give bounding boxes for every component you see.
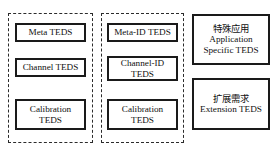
- box-calibration-teds-middle-line1: Calibration: [122, 104, 163, 114]
- box-calibration-teds-middle: Calibration TEDS: [107, 99, 178, 130]
- box-extension-teds-line2: Extension TEDS: [200, 104, 262, 114]
- box-calibration-teds-left-line2: TEDS: [39, 115, 62, 125]
- box-channel-id-teds-line1: Channel-ID: [121, 58, 164, 68]
- teds-structure-diagram: Meta TEDS Channel TEDS Calibration TEDS …: [0, 0, 276, 155]
- box-meta-id-teds: Meta-ID TEDS: [107, 23, 178, 42]
- box-channel-id-teds: Channel-ID TEDS: [107, 56, 178, 81]
- box-extension-teds: 扩展需求 Extension TEDS: [192, 78, 270, 130]
- box-channel-teds-line1: Channel TEDS: [23, 62, 79, 72]
- box-calibration-teds-left: Calibration TEDS: [15, 99, 86, 130]
- box-meta-teds: Meta TEDS: [15, 23, 86, 42]
- box-channel-teds: Channel TEDS: [15, 58, 86, 77]
- box-application-specific-teds-line1: 特殊应用: [213, 24, 250, 35]
- box-application-specific-teds-line3: Specific TEDS: [203, 45, 258, 55]
- box-meta-id-teds-line1: Meta-ID TEDS: [114, 27, 171, 37]
- box-application-specific-teds-line2: Application: [209, 34, 252, 44]
- box-meta-teds-line1: Meta TEDS: [29, 27, 73, 37]
- box-channel-id-teds-line2: TEDS: [131, 69, 154, 79]
- box-calibration-teds-left-line1: Calibration: [30, 104, 71, 114]
- box-calibration-teds-middle-line2: TEDS: [131, 115, 154, 125]
- box-extension-teds-line1: 扩展需求: [213, 94, 250, 105]
- box-application-specific-teds: 特殊应用 Application Specific TEDS: [192, 14, 270, 65]
